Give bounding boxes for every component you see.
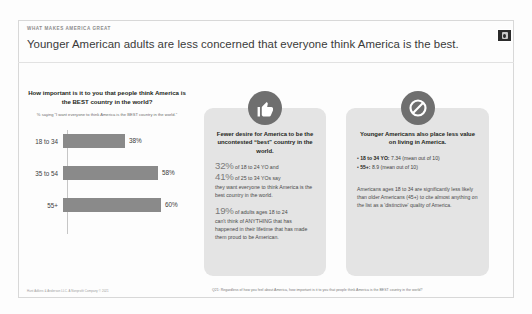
chart-subtitle: % saying "I want everyone to think Ameri…: [27, 112, 187, 118]
bar-fill: [63, 134, 125, 148]
frame-border-bottom: [18, 297, 514, 298]
stat-value: 19%: [215, 205, 234, 216]
card-paragraph: Americans ages 18 to 34 are significantl…: [357, 186, 478, 209]
prohibition-icon: [401, 91, 435, 125]
thumbs-down-icon: [248, 91, 282, 125]
stat-text: of 25 to 34 YOs say: [235, 175, 280, 181]
bar-track: 60%: [63, 198, 187, 212]
source-note: Q21: Regardless of how you feel about Am…: [212, 288, 422, 292]
bar-value-label: 58%: [162, 169, 175, 176]
bar-track: 38%: [63, 134, 187, 148]
brand-logo-mark: [498, 30, 511, 41]
stat-value: 32%: [215, 160, 234, 171]
stat-text: of 18 to 24 YO and: [235, 164, 278, 170]
chart-plot-area: 18 to 34 38% 35 to 54 58% 55+ 60%: [27, 134, 187, 212]
list-item: • 55+: 8.9 (mean out of 10): [357, 163, 478, 172]
bar-category-label: 55+: [27, 202, 63, 209]
bar-value-label: 38%: [129, 137, 142, 144]
infographic-slide: WHAT MAKES AMERICA GREAT Younger America…: [0, 0, 532, 314]
bar-chart-panel: How important is it to you that people t…: [27, 88, 187, 230]
bar-fill: [63, 198, 161, 212]
stat-line: 19% of adults ages 18 to 24: [215, 207, 315, 216]
bar-fill: [63, 166, 158, 180]
table-row: 55+ 60%: [27, 198, 187, 212]
table-row: 18 to 34 38%: [27, 134, 187, 148]
stat-body: they want everyone to think America is t…: [215, 184, 315, 199]
credit-text: Hunt Adkins & Anderson LLC. A Nonprofit …: [27, 289, 109, 293]
bullet-value: 8.9 (mean out of 10): [372, 164, 418, 170]
bar-category-label: 35 to 54: [27, 170, 63, 177]
header-divider: [18, 62, 514, 63]
insight-card-value: Younger Americans also place less value …: [346, 108, 489, 276]
stat-line: 32% of 18 to 24 YO and: [215, 162, 315, 171]
frame-border-top: [18, 20, 514, 21]
bar-value-label: 60%: [165, 201, 178, 208]
stat-body: can't think of ANYTHING that has happene…: [215, 218, 315, 241]
stat-line: 41% of 25 to 34 YOs say: [215, 173, 315, 182]
brand-logo: [497, 29, 512, 42]
bullet-label: 18 to 34 YO:: [360, 155, 389, 161]
bullet-value: 7.34 (mean out of 10): [391, 155, 440, 161]
list-item: • 18 to 34 YO: 7.34 (mean out of 10): [357, 154, 478, 163]
table-row: 35 to 54 58%: [27, 166, 187, 180]
stat-text: of adults ages 18 to 24: [235, 209, 288, 215]
bar-track: 58%: [63, 166, 187, 180]
bar-category-label: 18 to 34: [27, 138, 63, 145]
eyebrow-label: WHAT MAKES AMERICA GREAT: [27, 26, 111, 31]
bullet-label: 55+:: [360, 164, 370, 170]
insight-card-desire: Fewer desire for America to be the uncon…: [204, 108, 326, 276]
insight-card-body: Fewer desire for America to be the uncon…: [204, 108, 326, 251]
chart-title: How important is it to you that people t…: [27, 88, 187, 106]
stat-value: 41%: [215, 171, 234, 182]
page-title: Younger American adults are less concern…: [27, 38, 459, 50]
card-title: Younger Americans also place less value …: [357, 130, 478, 147]
card-title: Fewer desire for America to be the uncon…: [215, 130, 315, 155]
